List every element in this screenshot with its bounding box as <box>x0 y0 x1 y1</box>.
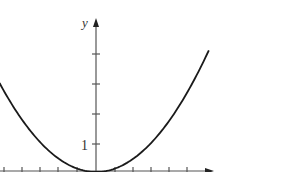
parabola-chart: y 1 <box>0 0 291 172</box>
y-axis-label: y <box>80 15 88 30</box>
parabola-curve <box>0 50 209 172</box>
x-axis-arrow-icon <box>205 168 214 172</box>
y-tick-label-1: 1 <box>81 138 88 153</box>
y-axis-arrow-icon <box>93 18 99 27</box>
